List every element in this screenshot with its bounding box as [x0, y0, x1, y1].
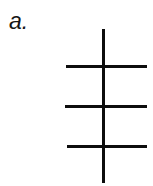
figure-panel-a: a. [0, 0, 153, 186]
bottom-horizontal-stroke [67, 145, 147, 148]
top-horizontal-stroke [66, 65, 147, 68]
panel-label: a. [9, 8, 28, 34]
middle-horizontal-stroke [65, 105, 147, 108]
